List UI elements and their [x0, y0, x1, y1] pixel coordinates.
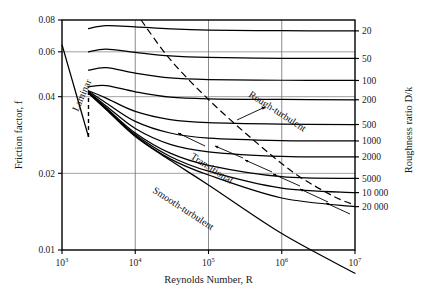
y2-tick-label: 20 000	[362, 202, 388, 212]
y-tick-label: 0.06	[38, 47, 55, 57]
moody-chart-svg: 103104105106107 0.080.060.040.020.01 205…	[0, 0, 426, 294]
y-tick-label: 0.08	[38, 15, 55, 25]
y2-tick-label: 2000	[362, 152, 381, 162]
y-tick-label: 0.01	[38, 245, 55, 255]
y2-tick-label: 5000	[362, 174, 381, 184]
x-axis-title: Reynolds Number, R	[164, 274, 253, 285]
y-tick-label: 0.02	[38, 169, 55, 179]
y2-tick-label: 500	[362, 120, 377, 130]
y-tick-label: 0.04	[38, 92, 55, 102]
y2-axis-title: Roughness ratio D/k	[403, 86, 414, 173]
y2-tick-label: 10 000	[362, 188, 388, 198]
y2-tick-label: 200	[362, 95, 377, 105]
y-axis-title: Friction factor, f	[13, 100, 24, 169]
y2-tick-label: 1000	[362, 136, 381, 146]
y2-tick-label: 50	[362, 54, 372, 64]
y2-tick-label: 100	[362, 76, 377, 86]
moody-diagram-figure: 103104105106107 0.080.060.040.020.01 205…	[0, 0, 426, 294]
y2-tick-label: 20	[362, 26, 372, 36]
